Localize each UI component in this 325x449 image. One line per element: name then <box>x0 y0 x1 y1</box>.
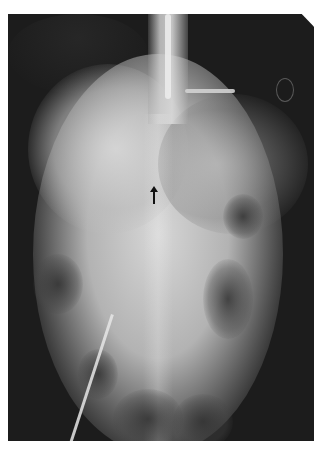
ring-artifact <box>276 78 294 102</box>
arrow-up-icon <box>150 186 158 204</box>
bowel-gas <box>33 254 83 314</box>
bowel-gas <box>113 389 183 441</box>
bowel-gas <box>223 194 263 239</box>
radiograph-image <box>8 14 314 441</box>
tube-horizontal-segment <box>185 89 235 93</box>
bowel-gas <box>173 394 233 441</box>
bowel-gas <box>203 259 253 339</box>
nasogastric-tube <box>165 14 171 99</box>
